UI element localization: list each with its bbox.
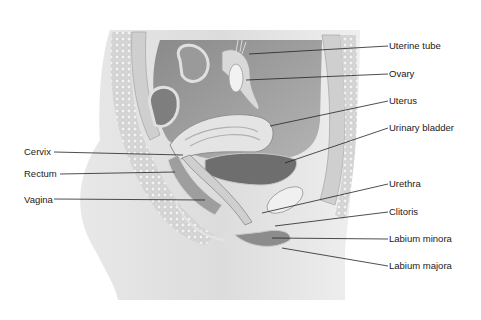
label-cervix: Cervix (24, 146, 51, 157)
label-ovary: Ovary (389, 68, 414, 79)
label-urinary-bladder: Urinary bladder (389, 122, 454, 133)
label-vagina: Vagina (24, 194, 53, 205)
ovary (229, 64, 243, 92)
label-urethra: Urethra (389, 178, 421, 189)
label-clitoris: Clitoris (389, 206, 418, 217)
label-rectum: Rectum (24, 168, 57, 179)
label-labium-minora: Labium minora (389, 233, 452, 244)
label-uterine-tube: Uterine tube (389, 40, 441, 51)
label-uterus: Uterus (389, 95, 417, 106)
label-labium-majora: Labium majora (389, 260, 452, 271)
